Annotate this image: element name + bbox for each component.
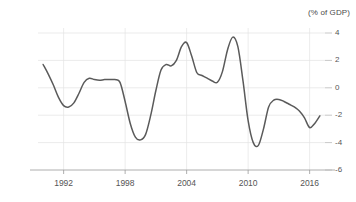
plot-area [0,0,356,202]
y-tick-label: 0 [335,83,339,92]
y-tick-label: -2 [335,110,342,119]
x-tick-label: 1992 [54,178,73,188]
x-tick-label: 1998 [116,178,135,188]
x-tick-label: 2016 [300,178,319,188]
y-tick-label: 2 [335,55,339,64]
y-tick-label: 4 [335,28,339,37]
series-line-balance [43,37,320,147]
gdp-line-chart: (% of GDP) 420-2-4-6 1992199820042010201… [0,0,356,202]
x-tick-label: 2010 [239,178,258,188]
y-tick-label: -6 [335,165,342,174]
x-tick-label: 2004 [177,178,196,188]
y-tick-label: -4 [335,138,342,147]
